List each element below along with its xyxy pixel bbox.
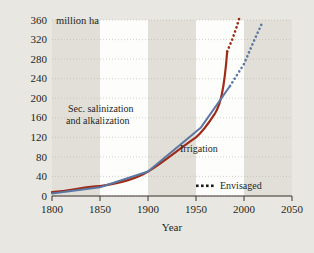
y-tick-200: 200 xyxy=(31,92,48,104)
y-tick-360: 360 xyxy=(31,14,48,26)
x-tick-1900: 1900 xyxy=(137,203,160,215)
chart-figure: 0 40 80 120 160 200 240 280 320 360 mill… xyxy=(0,0,314,253)
x-tick-2050: 2050 xyxy=(281,203,304,215)
salinization-irrigation-line-chart: 0 40 80 120 160 200 240 280 320 360 mill… xyxy=(0,0,314,253)
annotation-and-alkalization: and alkalization xyxy=(66,115,130,126)
y-tick-320: 320 xyxy=(31,33,48,45)
y-tick-40: 40 xyxy=(36,170,48,182)
y-tick-80: 80 xyxy=(36,151,48,163)
y-axis-unit-label: million ha xyxy=(56,15,99,26)
y-tick-280: 280 xyxy=(31,53,48,65)
legend-dot-1 xyxy=(196,185,199,188)
legend-label-envisaged: Envisaged xyxy=(220,180,262,191)
x-tick-1800: 1800 xyxy=(41,203,64,215)
y-tick-240: 240 xyxy=(31,72,48,84)
y-tick-160: 160 xyxy=(31,111,48,123)
band-2000-2050 xyxy=(244,20,292,196)
x-tick-1950: 1950 xyxy=(185,203,208,215)
legend-dot-2 xyxy=(201,185,204,188)
y-tick-0: 0 xyxy=(42,190,48,202)
x-tick-1850: 1850 xyxy=(89,203,112,215)
annotation-sec-salinization: Sec. salinization xyxy=(68,103,134,114)
y-tick-120: 120 xyxy=(31,131,48,143)
x-tick-2000: 2000 xyxy=(233,203,256,215)
legend-dot-3 xyxy=(206,185,209,188)
x-axis-title: Year xyxy=(162,221,183,233)
legend-dot-4 xyxy=(211,185,214,188)
band-1900-1950 xyxy=(148,20,196,196)
band-1950-2000 xyxy=(196,20,244,196)
annotation-irrigation: Irrigation xyxy=(180,143,218,154)
